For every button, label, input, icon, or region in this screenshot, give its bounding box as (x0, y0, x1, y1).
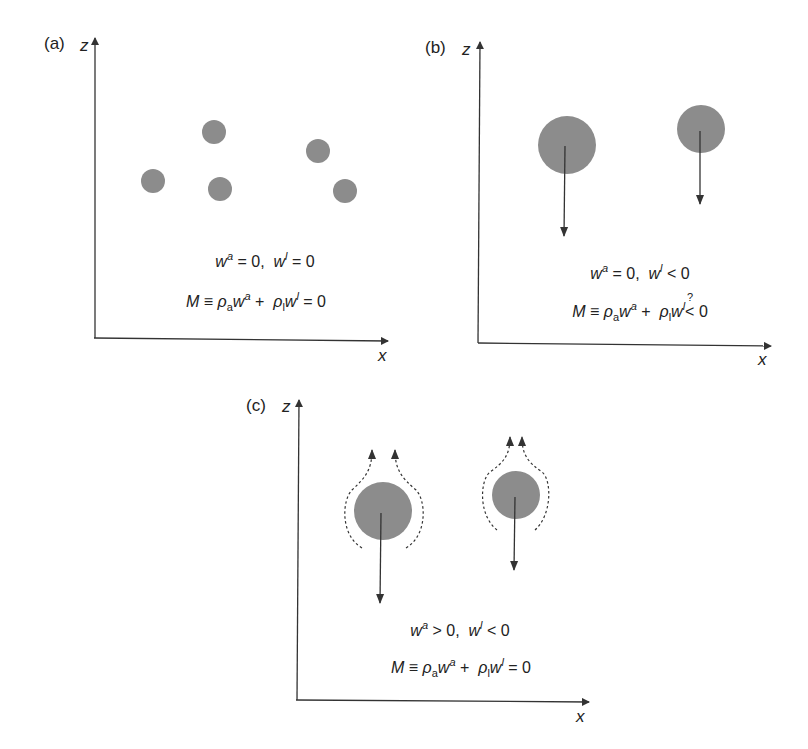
w-symbol: w (590, 265, 602, 282)
panel-label: (a) (44, 34, 65, 54)
equiv: ≡ (586, 303, 604, 320)
plus: + (637, 303, 660, 320)
uncertain-relation: ?< 0 (685, 303, 708, 321)
w-symbol: w (671, 303, 683, 320)
x-axis (478, 343, 771, 346)
x-axis-label: x (378, 346, 387, 366)
relation: > 0, (428, 622, 468, 639)
equiv: ≡ (199, 293, 217, 310)
particle (208, 177, 232, 201)
large-drop (538, 116, 596, 174)
particle (306, 139, 330, 163)
w-symbol: w (233, 293, 245, 310)
w-symbol: w (410, 622, 422, 639)
x-axis (94, 338, 388, 341)
relation: = 0 (288, 253, 315, 270)
relation: < 0 (685, 303, 708, 320)
w-symbol: w (469, 622, 481, 639)
relation: = 0 (299, 293, 326, 310)
z-axis-label: z (462, 40, 471, 60)
velocity-equation: wa > 0, wl < 0 (410, 622, 509, 640)
w-symbol: w (619, 303, 631, 320)
particle (333, 179, 357, 203)
plus: + (251, 293, 274, 310)
small-drop (677, 105, 725, 153)
relation: = 0, (233, 253, 273, 270)
w-symbol: w (438, 659, 450, 676)
rho-symbol: ρ (423, 659, 432, 676)
z-axis-label: z (282, 397, 291, 417)
velocity-equation: wa = 0, wl = 0 (215, 253, 314, 271)
rho-symbol: ρ (604, 303, 613, 320)
x-axis-label: x (758, 350, 767, 370)
diagram-canvas (0, 0, 808, 749)
w-symbol: w (490, 659, 502, 676)
panel-c (296, 400, 589, 702)
w-symbol: w (274, 253, 286, 270)
panel-label: (b) (425, 38, 446, 58)
w-symbol: w (649, 265, 661, 282)
mass-flux-equation: M ≡ ρawa + ρlwl = 0 (391, 659, 531, 677)
z-axis-label: z (80, 36, 89, 56)
particle (202, 120, 226, 144)
relation: = 0 (504, 659, 531, 676)
particle (141, 169, 165, 193)
M-symbol: M (186, 293, 199, 310)
relation: < 0 (663, 265, 690, 282)
z-axis (297, 400, 299, 700)
question-mark: ? (687, 291, 693, 303)
small-drop (492, 471, 540, 519)
M-symbol: M (572, 303, 585, 320)
rho-symbol: ρ (218, 293, 227, 310)
x-axis-label: x (576, 707, 585, 727)
panel-label: (c) (246, 396, 266, 416)
equiv: ≡ (404, 659, 422, 676)
z-axis (478, 42, 480, 343)
M-symbol: M (391, 659, 404, 676)
w-symbol: w (285, 293, 297, 310)
plus: + (456, 659, 479, 676)
velocity-equation: wa = 0, wl < 0 (590, 265, 689, 283)
panel-b (478, 42, 771, 346)
x-axis (296, 700, 589, 702)
relation: = 0, (608, 265, 648, 282)
w-symbol: w (215, 253, 227, 270)
mass-flux-equation: M ≡ ρawa + ρlwl?< 0 (572, 303, 708, 321)
mass-flux-equation: M ≡ ρawa + ρlwl = 0 (186, 293, 326, 311)
large-drop (354, 482, 412, 540)
relation: < 0 (483, 622, 510, 639)
